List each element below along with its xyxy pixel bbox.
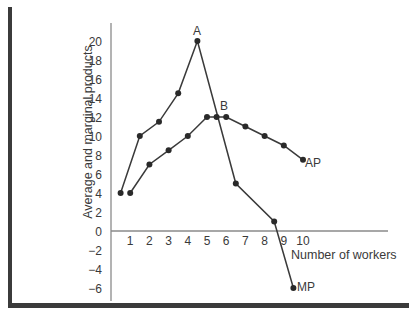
data-point-ap (281, 143, 287, 149)
data-point-mp (271, 219, 277, 225)
x-tick-label: 6 (223, 234, 230, 248)
data-point-ap (185, 133, 191, 139)
y-tick-label: −4 (88, 263, 102, 277)
data-point-ap (146, 162, 152, 168)
data-point-ap (262, 133, 268, 139)
data-point-ap (223, 114, 229, 120)
x-tick-label: 10 (296, 234, 310, 248)
y-tick-label: 8 (95, 149, 102, 163)
mp-series-label: MP (297, 280, 315, 294)
x-tick-labels: 12345678910 (127, 234, 310, 248)
data-point-mp (233, 181, 239, 187)
y-axis-label: Average and marginal products (81, 45, 95, 219)
series-line-ap (130, 117, 303, 193)
data-point-ap (242, 124, 248, 130)
data-point-ap (214, 114, 220, 120)
point-b-label: B (220, 99, 228, 113)
x-tick-label: 1 (127, 234, 134, 248)
data-point-mp (194, 38, 200, 44)
x-tick-label: 3 (165, 234, 172, 248)
data-point-ap (166, 147, 172, 153)
data-point-mp (137, 133, 143, 139)
y-tick-label: 0 (95, 225, 102, 239)
data-point-mp (156, 119, 162, 125)
x-tick-label: 2 (146, 234, 153, 248)
x-axis-label: Number of workers (291, 248, 397, 262)
x-tick-label: 8 (261, 234, 268, 248)
y-tick-label: −6 (88, 282, 102, 296)
x-tick-label: 5 (204, 234, 211, 248)
data-point-mp (118, 190, 124, 196)
chart-svg: 20181614121086420−2−4−6 12345678910 Aver… (0, 0, 409, 330)
data-point-mp (175, 90, 181, 96)
point-a-label: A (193, 24, 201, 38)
chart-frame: 20181614121086420−2−4−6 12345678910 Aver… (0, 0, 409, 330)
y-tick-label: 6 (95, 168, 102, 182)
x-tick-label: 7 (242, 234, 249, 248)
y-tick-label: 2 (95, 206, 102, 220)
x-tick-label: 4 (184, 234, 191, 248)
data-point-mp (290, 285, 296, 291)
data-point-ap (127, 190, 133, 196)
frame-left-border-lower (8, 150, 12, 305)
ap-series-label: AP (305, 156, 321, 170)
series-mp-line (118, 38, 297, 291)
frame-bottom-border (8, 303, 409, 308)
y-tick-label: 4 (95, 187, 102, 201)
data-point-ap (204, 114, 210, 120)
frame-left-border (8, 7, 12, 155)
y-tick-label: −2 (88, 244, 102, 258)
